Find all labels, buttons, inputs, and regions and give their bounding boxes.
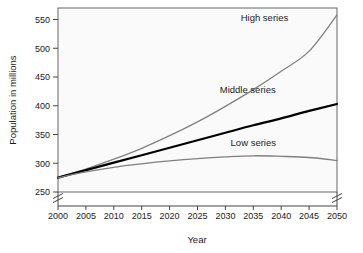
y-tick-label: 250 <box>35 187 50 197</box>
x-tick-label: 2015 <box>132 211 152 221</box>
x-tick-label: 2045 <box>299 211 319 221</box>
series-label-middle-series: Middle series <box>220 84 276 95</box>
x-tick-label: 2010 <box>104 211 124 221</box>
population-projection-chart: 250300350400450500550 200020052010201520… <box>0 0 363 253</box>
x-tick-label: 2040 <box>271 211 291 221</box>
y-axis-title: Population in millions <box>7 55 18 144</box>
series-label-low-series: Low series <box>231 137 277 148</box>
x-tick-label: 2035 <box>243 211 263 221</box>
y-tick-label: 500 <box>35 44 50 54</box>
chart-canvas: 250300350400450500550 200020052010201520… <box>0 0 363 253</box>
series-label-high-series: High series <box>241 12 289 23</box>
y-tick-label: 550 <box>35 15 50 25</box>
y-tick-label: 450 <box>35 72 50 82</box>
x-axis-tick-labels: 2000200520102015202020252030203520402045… <box>48 211 347 221</box>
x-tick-label: 2000 <box>48 211 68 221</box>
y-tick-label: 350 <box>35 130 50 140</box>
x-tick-label: 2030 <box>215 211 235 221</box>
x-tick-label: 2005 <box>76 211 96 221</box>
y-tick-label: 300 <box>35 159 50 169</box>
y-tick-label: 400 <box>35 101 50 111</box>
x-tick-label: 2025 <box>187 211 207 221</box>
x-tick-label: 2050 <box>327 211 347 221</box>
x-axis-title: Year <box>187 234 206 245</box>
x-tick-label: 2020 <box>160 211 180 221</box>
